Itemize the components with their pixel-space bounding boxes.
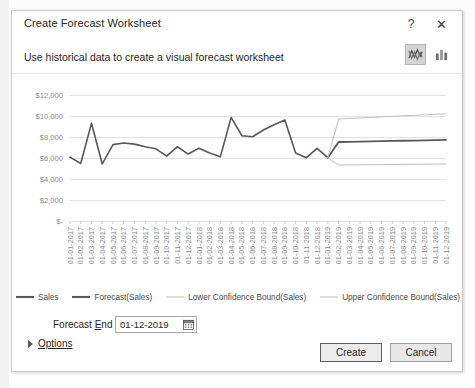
svg-text:01-02-2017: 01-02-2017: [76, 227, 85, 264]
chart-gridlines: [70, 95, 446, 221]
series-lower-confidence-bound-sales: [328, 158, 446, 165]
svg-text:01-09-2018: 01-09-2018: [280, 227, 289, 264]
svg-text:01-01-2018: 01-01-2018: [195, 227, 204, 264]
create-forecast-worksheet-dialog: Create Forecast Worksheet ? ✕ Use histor…: [11, 10, 463, 372]
line-chart-icon: [408, 47, 423, 62]
forecast-end-label-pre: Forecast: [53, 319, 95, 330]
svg-text:01-07-2019: 01-07-2019: [388, 227, 397, 264]
legend-swatch: [16, 294, 34, 300]
svg-text:01-08-2017: 01-08-2017: [141, 227, 150, 264]
svg-text:01-07-2018: 01-07-2018: [259, 227, 268, 264]
svg-text:01-09-2017: 01-09-2017: [152, 227, 161, 264]
svg-text:01-12-2019: 01-12-2019: [442, 227, 451, 264]
chart-series-group: [70, 114, 446, 165]
svg-text:01-10-2019: 01-10-2019: [420, 227, 429, 264]
svg-text:01-02-2018: 01-02-2018: [205, 227, 214, 264]
svg-text:01-11-2019: 01-11-2019: [431, 227, 440, 264]
svg-text:01-12-2017: 01-12-2017: [184, 227, 193, 264]
help-icon[interactable]: ?: [400, 14, 422, 34]
svg-text:$2,000: $2,000: [40, 196, 63, 205]
dialog-subtitle: Use historical data to create a visual f…: [24, 51, 284, 63]
create-button[interactable]: Create: [320, 343, 382, 362]
legend-item: Forecast(Sales): [72, 293, 152, 302]
capture-edge-left: [0, 0, 9, 388]
chart-y-axis-labels: $12,000$10,000$8,000$6,000$4,000$2,000$-: [36, 91, 64, 226]
svg-text:01-11-2017: 01-11-2017: [173, 227, 182, 264]
legend-swatch: [166, 294, 184, 300]
svg-text:01-06-2019: 01-06-2019: [377, 227, 386, 264]
svg-text:01-01-2019: 01-01-2019: [323, 227, 332, 264]
svg-text:$6,000: $6,000: [40, 154, 63, 163]
dialog-title: Create Forecast Worksheet: [24, 17, 161, 29]
triangle-right-icon: [28, 340, 33, 348]
svg-text:01-04-2019: 01-04-2019: [356, 227, 365, 264]
legend-item: Sales: [16, 293, 58, 302]
svg-text:01-04-2017: 01-04-2017: [98, 227, 107, 264]
legend-label: Upper Confidence Bound(Sales): [342, 293, 460, 302]
forecast-end-row: Forecast End: [12, 316, 462, 336]
svg-text:$12,000: $12,000: [36, 91, 63, 100]
column-chart-type-button[interactable]: [431, 44, 452, 65]
series-forecast-sales: [328, 140, 446, 158]
close-icon[interactable]: ✕: [430, 14, 452, 34]
series-upper-confidence-bound-sales: [328, 114, 446, 158]
svg-text:$4,000: $4,000: [40, 175, 63, 184]
svg-text:01-04-2018: 01-04-2018: [227, 227, 236, 264]
svg-text:01-02-2019: 01-02-2019: [334, 227, 343, 264]
svg-text:01-03-2017: 01-03-2017: [87, 227, 96, 264]
cancel-button[interactable]: Cancel: [390, 343, 452, 362]
capture-edge-top: [0, 0, 475, 9]
chart-x-axis-labels: 01-01-201701-02-201701-03-201701-04-2017…: [66, 221, 451, 264]
svg-text:01-01-2017: 01-01-2017: [66, 227, 75, 264]
legend-label: Lower Confidence Bound(Sales): [188, 293, 306, 302]
svg-text:01-09-2019: 01-09-2019: [409, 227, 418, 264]
svg-text:01-12-2018: 01-12-2018: [313, 227, 322, 264]
options-label: Options: [38, 338, 72, 349]
svg-text:01-11-2018: 01-11-2018: [302, 227, 311, 264]
calendar-icon: [183, 319, 194, 330]
svg-text:$-: $-: [56, 217, 63, 226]
svg-text:01-10-2017: 01-10-2017: [162, 227, 171, 264]
legend-item: Upper Confidence Bound(Sales): [320, 293, 460, 302]
svg-text:01-08-2019: 01-08-2019: [399, 227, 408, 264]
svg-text:01-08-2018: 01-08-2018: [270, 227, 279, 264]
header-divider: [12, 73, 462, 74]
legend-item: Lower Confidence Bound(Sales): [166, 293, 306, 302]
svg-text:01-10-2018: 01-10-2018: [291, 227, 300, 264]
forecast-chart: $12,000$10,000$8,000$6,000$4,000$2,000$-…: [24, 79, 452, 289]
forecast-chart-svg: $12,000$10,000$8,000$6,000$4,000$2,000$-…: [24, 79, 452, 289]
calendar-picker-button[interactable]: [180, 316, 197, 333]
svg-text:01-05-2019: 01-05-2019: [366, 227, 375, 264]
line-chart-type-button[interactable]: [405, 44, 426, 65]
column-chart-icon: [434, 47, 449, 62]
svg-text:01-06-2017: 01-06-2017: [119, 227, 128, 264]
svg-text:01-07-2017: 01-07-2017: [130, 227, 139, 264]
dialog-titlebar: Create Forecast Worksheet ? ✕: [12, 11, 462, 38]
series-sales: [70, 117, 328, 164]
svg-text:01-03-2019: 01-03-2019: [345, 227, 354, 264]
svg-text:$10,000: $10,000: [36, 112, 63, 121]
chart-legend: SalesForecast(Sales)Lower Confidence Bou…: [24, 289, 452, 305]
chart-type-toggle-group: [405, 44, 452, 65]
svg-text:01-05-2018: 01-05-2018: [237, 227, 246, 264]
forecast-end-label-post: nd: [101, 319, 112, 330]
svg-text:$8,000: $8,000: [40, 133, 63, 142]
legend-swatch: [320, 294, 338, 300]
svg-text:01-05-2017: 01-05-2017: [109, 227, 118, 264]
legend-label: Sales: [38, 293, 58, 302]
legend-swatch: [72, 294, 90, 300]
forecast-end-label: Forecast End: [53, 319, 112, 330]
options-expander[interactable]: Options: [28, 338, 72, 349]
legend-label: Forecast(Sales): [94, 293, 152, 302]
dialog-footer: Create Cancel: [320, 343, 452, 362]
svg-text:01-06-2018: 01-06-2018: [248, 227, 257, 264]
svg-text:01-03-2018: 01-03-2018: [216, 227, 225, 264]
